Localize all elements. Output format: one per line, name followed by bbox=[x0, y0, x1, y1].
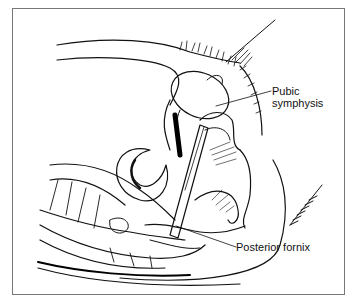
leader-posterior-fornix bbox=[176, 226, 236, 247]
leader-pubic-symphysis bbox=[216, 91, 271, 106]
label-posterior-fornix: Posterior fornix bbox=[236, 241, 310, 253]
anatomy-illustration bbox=[0, 0, 356, 308]
label-pubic-line1: Pubic bbox=[272, 85, 323, 97]
hair-strokes bbox=[180, 20, 275, 113]
label-pubic-symphysis: Pubic symphysis bbox=[272, 85, 323, 109]
label-pubic-line2: symphysis bbox=[272, 97, 323, 109]
